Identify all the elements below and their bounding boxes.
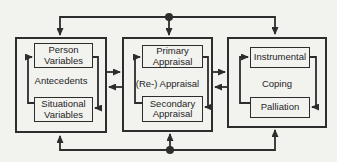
situational-variables-box: Situational Variables [34, 97, 93, 122]
primary-appraisal-box: Primary Appraisal [142, 45, 203, 68]
antecedents-label: Antecedents [15, 75, 107, 86]
secondary-appraisal-box: Secondary Appraisal [142, 96, 203, 122]
top-loop-to-coping [169, 17, 275, 34]
secondary-appraisal-label-line2: Appraisal [153, 109, 193, 120]
coping-label: Coping [227, 78, 327, 89]
junction-dot-top [165, 13, 173, 21]
bottom-loop-to-coping [170, 130, 275, 150]
situational-variables-label-line2: Variables [44, 110, 83, 121]
person-variables-label-line1: Person [48, 45, 78, 56]
junction-dot-bottom [166, 146, 174, 154]
person-variables-label-line2: Variables [44, 56, 83, 67]
primary-appraisal-label-line1: Primary [156, 46, 189, 57]
instrumental-box: Instrumental [250, 47, 310, 68]
person-variables-box: Person Variables [34, 43, 93, 68]
top-loop-to-antecedents [60, 17, 169, 35]
primary-appraisal-label-line2: Appraisal [153, 57, 193, 68]
palliation-box: Palliation [250, 97, 310, 118]
bottom-loop-to-antecedents [60, 136, 170, 150]
situational-variables-label-line1: Situational [41, 99, 85, 110]
reappraisal-label: (Re-) Appraisal [122, 78, 213, 89]
instrumental-label: Instrumental [254, 52, 306, 63]
stress-coping-diagram: Person Variables Antecedents Situational… [0, 0, 337, 162]
palliation-label: Palliation [261, 102, 300, 113]
